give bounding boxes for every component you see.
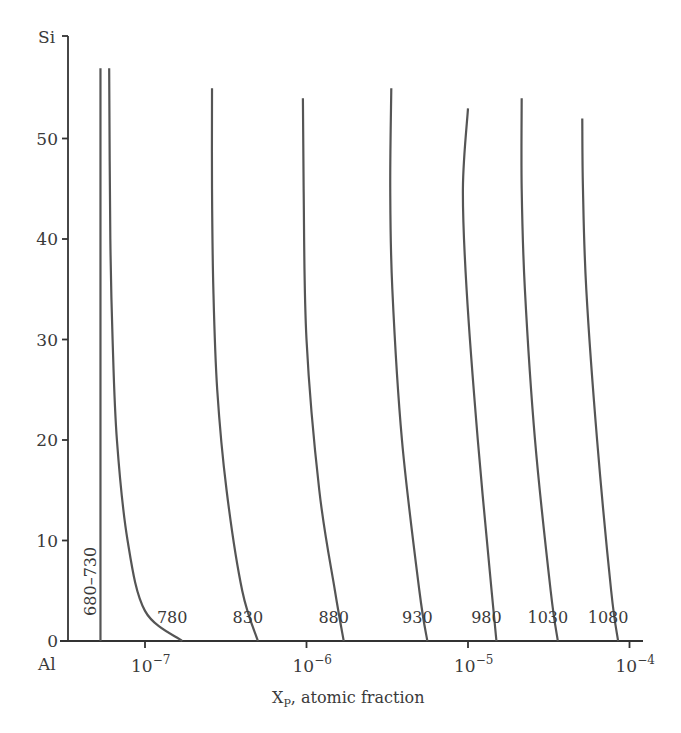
y-axis-top-label: Si (38, 27, 56, 47)
isotherm-curves (100, 68, 618, 641)
curve-label: 830 (233, 608, 264, 627)
curve-label: 680–730 (81, 547, 100, 616)
isotherm-curve-1080 (582, 118, 618, 641)
y-tick-label: 40 (36, 229, 58, 249)
x-tick-label: 10−4 (616, 653, 656, 676)
isotherm-curve-930 (390, 88, 427, 641)
y-tick-label: 30 (36, 330, 58, 350)
isotherm-curve-980 (463, 108, 497, 641)
isotherm-curve-780 (109, 68, 182, 641)
y-ticks: 01020304050 (36, 129, 68, 652)
y-tick-label: 0 (47, 631, 58, 651)
y-tick-label: 50 (36, 129, 58, 149)
curve-label: 780 (157, 608, 188, 627)
curve-label: 880 (318, 608, 349, 627)
x-tick-label: 10−7 (131, 653, 170, 676)
y-tick-label: 10 (36, 531, 58, 551)
curve-label: 930 (402, 608, 433, 627)
x-axis-origin-label: Al (37, 654, 56, 674)
y-tick-label: 20 (36, 430, 58, 450)
isotherm-curve-830 (212, 88, 258, 641)
x-axis-title: XP, atomic fraction (272, 688, 424, 710)
isotherm-chart: 01020304050 10−710−610−510−4 Si Al XP, a… (0, 0, 681, 733)
curve-label: 980 (471, 608, 502, 627)
x-tick-label: 10−5 (454, 653, 493, 676)
curve-label: 1030 (527, 608, 568, 627)
curve-label: 1080 (588, 608, 629, 627)
isotherm-curve-880 (303, 98, 344, 641)
x-ticks: 10−710−610−510−4 (131, 641, 655, 676)
isotherm-curve-1030 (521, 98, 557, 641)
x-tick-label: 10−6 (293, 653, 332, 676)
